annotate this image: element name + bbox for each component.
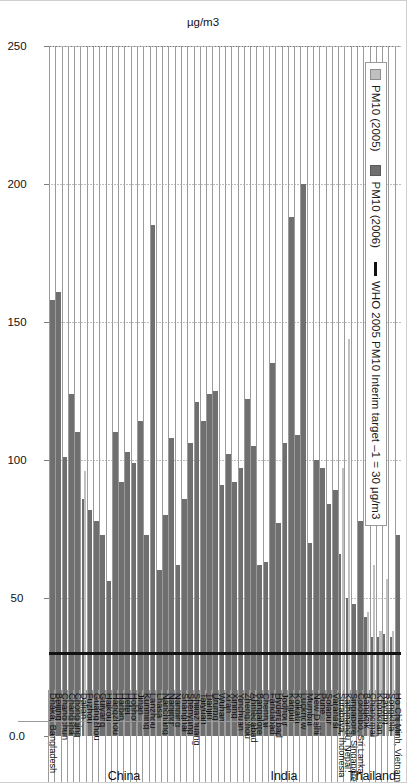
category-separator bbox=[48, 690, 49, 782]
bar-pm10-2006 bbox=[207, 394, 212, 736]
country-group-bracket bbox=[244, 721, 338, 722]
row-separator bbox=[282, 46, 283, 736]
row-separator bbox=[112, 46, 113, 736]
bar-pm10-2006 bbox=[69, 394, 74, 736]
row-separator bbox=[175, 46, 176, 736]
bar-pm10-2006 bbox=[195, 402, 200, 736]
bar-row bbox=[351, 46, 357, 736]
bar-row bbox=[194, 46, 200, 736]
bar-row bbox=[99, 46, 105, 736]
bar-row bbox=[263, 46, 269, 736]
bar-row bbox=[313, 46, 319, 736]
bar-row bbox=[168, 46, 174, 736]
bar-row bbox=[200, 46, 206, 736]
row-separator bbox=[300, 46, 301, 736]
bar-pm10-2006 bbox=[138, 421, 143, 736]
country-group-label: India bbox=[270, 769, 297, 783]
row-separator bbox=[351, 46, 352, 736]
bar-row bbox=[269, 46, 275, 736]
row-separator bbox=[206, 46, 207, 736]
bar-row bbox=[294, 46, 300, 736]
bar-pm10-2006 bbox=[56, 292, 61, 736]
bar-row bbox=[62, 46, 68, 736]
bar-row bbox=[219, 46, 225, 736]
row-separator bbox=[250, 46, 251, 736]
bar-row bbox=[307, 46, 313, 736]
bar-row bbox=[332, 46, 338, 736]
row-separator bbox=[74, 46, 75, 736]
bar-rows bbox=[49, 46, 401, 736]
bar-row bbox=[338, 46, 344, 736]
row-separator bbox=[99, 46, 100, 736]
bar-row bbox=[150, 46, 156, 736]
bar-row bbox=[275, 46, 281, 736]
bar-row bbox=[181, 46, 187, 736]
bar-row bbox=[357, 46, 363, 736]
bar-row bbox=[162, 46, 168, 736]
bar-row bbox=[212, 46, 218, 736]
bar-row bbox=[87, 46, 93, 736]
row-separator bbox=[263, 46, 264, 736]
bar-row bbox=[256, 46, 262, 736]
row-separator bbox=[156, 46, 157, 736]
row-separator bbox=[395, 46, 396, 736]
bar-row bbox=[244, 46, 250, 736]
row-separator bbox=[344, 46, 345, 736]
x-tick bbox=[44, 46, 49, 47]
bar-row bbox=[319, 46, 325, 736]
legend-item-who-target: WHO 2005 PM10 Interim target –1 = 30 µg/… bbox=[370, 262, 382, 519]
row-separator bbox=[275, 46, 276, 736]
bar-pm10-2005 bbox=[348, 339, 350, 736]
row-separator bbox=[181, 46, 182, 736]
row-separator bbox=[87, 46, 88, 736]
legend-swatch-2006-icon bbox=[371, 165, 382, 176]
bar-row bbox=[344, 46, 350, 736]
x-tick-label: 100 bbox=[0, 454, 34, 466]
row-separator bbox=[106, 46, 107, 736]
plot-area: 250200150100500.0 bbox=[49, 46, 401, 736]
bar-row bbox=[388, 46, 394, 736]
country-group-bracket bbox=[363, 721, 394, 722]
row-separator bbox=[200, 46, 201, 736]
legend-label-2006: PM10 (2006) bbox=[370, 181, 382, 247]
row-separator bbox=[187, 46, 188, 736]
row-separator bbox=[338, 46, 339, 736]
row-separator bbox=[150, 46, 151, 736]
bar-row bbox=[49, 46, 55, 736]
row-separator bbox=[62, 46, 63, 736]
x-tick-label: 200 bbox=[0, 178, 34, 190]
row-separator bbox=[194, 46, 195, 736]
bar-row bbox=[300, 46, 306, 736]
bar-pm10-2006 bbox=[201, 421, 206, 736]
row-separator bbox=[162, 46, 163, 736]
axis-title-y: µg/m3 bbox=[187, 16, 219, 28]
row-separator bbox=[244, 46, 245, 736]
row-separator bbox=[80, 46, 81, 736]
row-separator bbox=[256, 46, 257, 736]
row-separator bbox=[269, 46, 270, 736]
row-separator bbox=[326, 46, 327, 736]
bar-row bbox=[206, 46, 212, 736]
x-tick-label: 250 bbox=[0, 40, 34, 52]
bar-row bbox=[143, 46, 149, 736]
row-separator bbox=[168, 46, 169, 736]
row-separator bbox=[137, 46, 138, 736]
bar-row bbox=[175, 46, 181, 736]
x-tick-label: 50 bbox=[0, 592, 34, 604]
row-separator bbox=[93, 46, 94, 736]
x-tick bbox=[44, 460, 49, 461]
x-tick-label: 150 bbox=[0, 316, 34, 328]
row-separator bbox=[332, 46, 333, 736]
who-target-line bbox=[49, 652, 401, 655]
bar-row bbox=[80, 46, 86, 736]
bar-row bbox=[124, 46, 130, 736]
x-tick bbox=[44, 322, 49, 323]
bar-row bbox=[131, 46, 137, 736]
x-tick-label: 0.0 bbox=[0, 730, 34, 742]
row-separator bbox=[219, 46, 220, 736]
bar-row bbox=[250, 46, 256, 736]
bar-row bbox=[93, 46, 99, 736]
